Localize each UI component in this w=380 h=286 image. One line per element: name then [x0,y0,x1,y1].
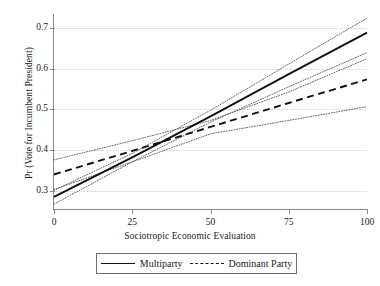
x-tick-label: 50 [191,217,231,227]
x-axis-title: Sociotropic Economic Evaluation [0,231,380,241]
y-tick-label: 0.7 [20,23,48,32]
plot-area: 0.30.40.50.60.7 0255075100 [54,14,367,209]
y-tick-label: 0.4 [20,145,48,154]
legend-item-dominant-party: Dominant Party [190,258,293,269]
y-tick-label: 0.3 [20,186,48,195]
legend-label-multiparty: Multiparty [140,258,183,269]
ci-upper-dominant-party [54,59,367,160]
ci-lower-dominant-party [54,107,367,190]
y-tick-label: 0.5 [20,104,48,113]
x-tick [132,209,133,214]
chart-legend: Multiparty Dominant Party [96,253,297,274]
series-lines [54,14,367,209]
legend-key-solid-icon [101,263,135,264]
legend-item-multiparty: Multiparty [101,258,183,269]
x-tick-label: 25 [112,217,152,227]
legend-key-dashed-icon [190,263,224,264]
chart-figure: Pr (Vote for Incumbent President) 0.30.4… [0,0,380,286]
x-tick [367,209,368,214]
x-tick [289,209,290,214]
x-tick-label: 100 [347,217,380,227]
legend-label-dominant-party: Dominant Party [229,258,293,269]
series-line-multiparty [54,33,367,197]
x-tick [54,209,55,214]
ci-lower-multiparty [54,53,367,205]
y-tick-label: 0.6 [20,64,48,73]
ci-upper-multiparty [54,18,367,190]
series-line-dominant-party [54,79,367,174]
x-tick [211,209,212,214]
x-tick-label: 75 [269,217,309,227]
x-tick-label: 0 [34,217,74,227]
